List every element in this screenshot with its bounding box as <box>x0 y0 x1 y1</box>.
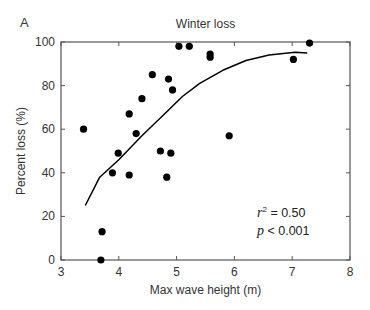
panel-label: A <box>20 15 29 30</box>
axis-ticks: 345678020406080100 <box>35 35 354 279</box>
y-tick-label: 40 <box>42 166 56 180</box>
r-value: = 0.50 <box>267 206 306 220</box>
data-point <box>165 75 172 82</box>
data-point <box>126 110 133 117</box>
data-point <box>290 56 297 63</box>
data-point <box>186 43 193 50</box>
data-point <box>163 174 170 181</box>
data-point <box>126 171 133 178</box>
x-tick-label: 7 <box>289 265 296 279</box>
fit-curve <box>85 52 307 205</box>
data-point <box>169 86 176 93</box>
data-point <box>207 54 214 61</box>
y-tick-label: 80 <box>42 79 56 93</box>
chart-title: Winter loss <box>61 17 350 31</box>
scatter-plot: 345678020406080100 <box>0 0 370 310</box>
data-point <box>109 169 116 176</box>
data-point <box>80 126 87 133</box>
fit-line-path <box>85 52 307 205</box>
data-point <box>138 95 145 102</box>
data-point <box>226 132 233 139</box>
x-tick-label: 8 <box>347 265 354 279</box>
p-symbol: p <box>257 223 264 238</box>
data-point <box>98 228 105 235</box>
data-point <box>306 39 313 46</box>
x-axis-label: Max wave height (m) <box>61 283 350 297</box>
data-point <box>149 71 156 78</box>
x-tick-label: 4 <box>115 265 122 279</box>
data-point <box>133 130 140 137</box>
x-tick-label: 3 <box>58 265 65 279</box>
data-point <box>167 150 174 157</box>
y-axis-label: Percent loss (%) <box>14 107 28 195</box>
y-tick-label: 100 <box>35 35 55 49</box>
x-tick-label: 6 <box>231 265 238 279</box>
data-point <box>175 43 182 50</box>
y-tick-label: 60 <box>42 122 56 136</box>
y-tick-label: 0 <box>48 253 55 267</box>
x-tick-label: 5 <box>173 265 180 279</box>
p-value: < 0.001 <box>264 224 310 238</box>
r-squared-annotation: r2 = 0.50 <box>257 205 305 221</box>
data-point <box>115 150 122 157</box>
p-value-annotation: p < 0.001 <box>257 223 310 239</box>
data-point <box>97 256 104 263</box>
data-point <box>157 147 164 154</box>
y-tick-label: 20 <box>42 209 56 223</box>
